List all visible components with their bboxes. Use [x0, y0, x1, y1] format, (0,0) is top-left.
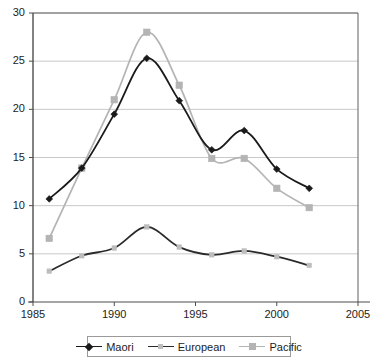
data-point-european-1986: [47, 269, 52, 274]
data-point-pacific-1994: [176, 82, 183, 89]
data-point-european-2000: [274, 254, 279, 259]
data-point-pacific-1990: [111, 96, 118, 103]
y-axis-tick-label: 10: [0, 199, 25, 211]
legend-item-european[interactable]: European: [148, 341, 226, 353]
legend-square-marker-icon: [249, 343, 256, 350]
y-axis-tick-label: 25: [0, 54, 25, 66]
x-axis-tick-label: 2000: [260, 308, 294, 320]
legend-label: Maori: [106, 341, 134, 353]
legend-diamond-marker-icon: [85, 342, 93, 350]
data-point-pacific-1986: [46, 235, 53, 242]
legend-item-pacific[interactable]: Pacific: [239, 341, 301, 353]
data-point-maori-2002: [306, 185, 313, 192]
line-chart: 30252015105019851990199520002005MaoriEur…: [0, 0, 375, 360]
data-point-european-1998: [242, 249, 247, 254]
data-point-european-1992: [144, 225, 149, 230]
y-axis-tick-label: 15: [0, 151, 25, 163]
y-axis-tick-label: 0: [0, 295, 25, 307]
data-point-pacific-1998: [241, 155, 248, 162]
y-axis-tick-label: 30: [0, 6, 25, 18]
gridlines: [33, 13, 358, 254]
legend-label: European: [178, 341, 226, 353]
series-line-maori: [49, 58, 309, 199]
data-point-pacific-2000: [273, 185, 280, 192]
data-point-pacific-2002: [306, 204, 313, 211]
legend-swatch-european-icon: [148, 342, 174, 352]
series-maori: [46, 55, 313, 202]
data-point-maori-1998: [241, 127, 248, 134]
legend-swatch-maori-icon: [76, 342, 102, 352]
x-axis-tick-label: 1995: [179, 308, 213, 320]
chart-canvas: [0, 0, 375, 360]
x-axis-tick-label: 2005: [341, 308, 375, 320]
x-axis-tick-label: 1985: [16, 308, 50, 320]
series-line-pacific: [49, 32, 309, 238]
data-point-european-1988: [79, 253, 84, 258]
x-axis-tick-label: 1990: [97, 308, 131, 320]
chart-legend: MaoriEuropeanPacific: [87, 336, 291, 357]
y-axis-tick-label: 5: [0, 247, 25, 259]
data-point-pacific-1996: [208, 155, 215, 162]
y-axis-tick-label: 20: [0, 102, 25, 114]
data-point-european-1994: [177, 245, 182, 250]
data-point-european-1996: [209, 253, 214, 258]
legend-swatch-pacific-icon: [239, 342, 265, 352]
axes: [28, 13, 370, 306]
data-point-pacific-1992: [143, 29, 150, 36]
series-european: [47, 225, 312, 274]
legend-label: Pacific: [269, 341, 301, 353]
data-point-maori-1992: [143, 55, 150, 62]
data-point-european-1990: [112, 246, 117, 251]
data-point-european-2002: [307, 263, 312, 268]
legend-item-maori[interactable]: Maori: [76, 341, 134, 353]
legend-small-square-marker-icon: [158, 344, 163, 349]
